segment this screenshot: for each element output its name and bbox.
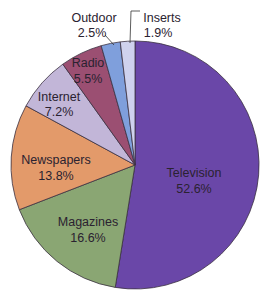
label-outdoor-name: Outdoor [71,11,116,25]
label-magazines-name: Magazines [58,215,118,229]
pie-chart: Television 52.6% Magazines 16.6% Newspap… [0,0,271,304]
label-television-name: Television [167,166,222,180]
label-internet-value: 7.2% [45,105,74,119]
label-inserts-name: Inserts [143,11,181,25]
slice-television [115,41,259,289]
label-outdoor-value: 2.5% [78,26,107,40]
label-inserts-value: 1.9% [144,26,173,40]
label-radio-value: 5.5% [74,72,103,86]
label-newspapers-name: Newspapers [21,153,90,167]
label-internet-name: Internet [38,90,81,104]
label-television-value: 52.6% [176,182,211,196]
label-magazines-value: 16.6% [70,231,105,245]
label-radio-name: Radio [72,56,105,70]
label-newspapers-value: 13.8% [38,169,73,183]
inserts-leader-line [130,11,140,43]
